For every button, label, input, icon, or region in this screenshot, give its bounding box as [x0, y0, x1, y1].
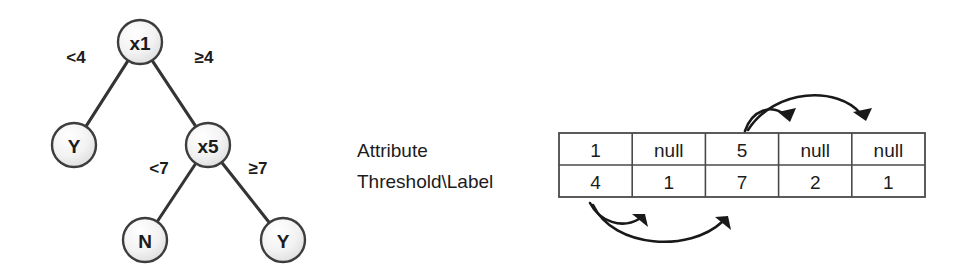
array-cells-group: 1null5nullnull41721 [590, 140, 903, 193]
tree-edges-group [85, 60, 270, 224]
array-row-label-0: Attribute [357, 140, 428, 161]
array-cell-r0-c1: null [654, 140, 684, 161]
pointer-child-right-of-x1-head [715, 216, 731, 230]
tree-node-label-leafY1: Y [68, 136, 81, 157]
tree-edge-label-0: <4 [66, 48, 86, 67]
figure-root: <4≥4<7≥7 x1Yx5NY AttributeThreshold\Labe… [0, 0, 967, 273]
pointer-child-right-of-x5-curve [748, 95, 861, 130]
array-cell-r1-c3: 2 [810, 172, 821, 193]
array-row-label-1: Threshold\Label [357, 171, 493, 192]
array-cell-r1-c1: 1 [664, 172, 675, 193]
pointer-child-left-of-x5-head [778, 108, 796, 122]
tree-edge-root-leafY1 [85, 60, 128, 128]
array-row-labels-group: AttributeThreshold\Label [357, 140, 493, 192]
array-cell-r0-c4: null [874, 140, 904, 161]
tree-edge-label-3: ≥7 [249, 159, 268, 178]
tree-node-label-leafY2: Y [277, 231, 290, 252]
array-cell-r0-c3: null [800, 140, 830, 161]
array-cell-r1-c4: 1 [883, 172, 894, 193]
tree-edge-label-2: <7 [149, 159, 168, 178]
tree-node-label-leafN: N [138, 231, 152, 252]
array-cell-r1-c0: 4 [590, 172, 601, 193]
array-cell-r0-c2: 5 [737, 140, 748, 161]
tree-nodes-group: x1Yx5NY [52, 20, 305, 262]
tree-edge-root-x5 [152, 60, 197, 128]
array-cell-r0-c0: 1 [590, 140, 601, 161]
tree-node-label-root: x1 [129, 33, 151, 54]
array-cell-r1-c2: 7 [737, 172, 748, 193]
decision-tree-array-figure: <4≥4<7≥7 x1Yx5NY AttributeThreshold\Labe… [0, 0, 967, 273]
tree-edge-label-1: ≥4 [195, 48, 214, 67]
tree-node-label-x5: x5 [197, 136, 219, 157]
